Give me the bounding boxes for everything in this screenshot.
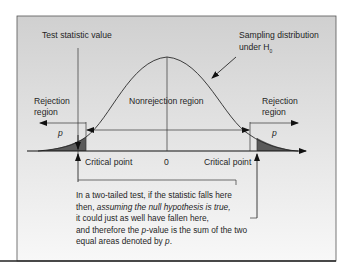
right-rejection-label-1: Rejection	[262, 96, 298, 107]
caption-line-2: then, assuming the null hypothesis is tr…	[76, 202, 247, 214]
caption-line-3: it could just as well have fallen here,	[76, 213, 247, 225]
explanation-caption: In a two-tailed test, if the statistic f…	[76, 190, 247, 248]
right-rejection-label-2: region	[262, 107, 286, 118]
two-tailed-test-diagram: Test statistic value Sampling distributi…	[0, 0, 353, 277]
test-statistic-label: Test statistic value	[42, 30, 112, 41]
right-critical-point-label: Critical point	[204, 157, 251, 168]
caption-line-5: equal areas denoted by p.	[76, 236, 247, 248]
left-rejection-label-1: Rejection	[34, 96, 70, 107]
sampling-distribution-label-2: under H0	[239, 42, 272, 57]
left-p-label: p	[58, 128, 63, 139]
zero-label: 0	[164, 157, 169, 168]
caption-line-1: In a two-tailed test, if the statistic f…	[76, 190, 247, 202]
caption-line-4: and therefore the p-value is the sum of …	[76, 225, 247, 237]
left-critical-point-label: Critical point	[85, 157, 132, 168]
right-p-label: p	[272, 128, 277, 139]
left-rejection-label-2: region	[34, 107, 58, 118]
nonrejection-label: Nonrejection region	[129, 96, 204, 107]
sampling-distribution-label-1: Sampling distribution	[239, 30, 319, 41]
